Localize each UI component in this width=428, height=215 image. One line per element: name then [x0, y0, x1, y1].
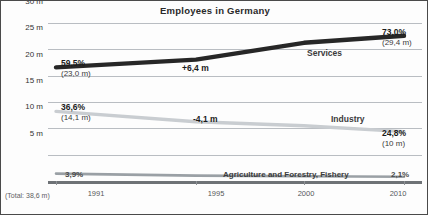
industry-start-absolute: (14,1 m) — [61, 113, 91, 122]
y-axis-label-5m: 5 m — [3, 128, 43, 137]
x-axis-label-2000: 2000 — [298, 189, 315, 198]
x-tick-2010 — [404, 181, 405, 185]
industry-end-annotation: 24,8% (10 m) — [382, 128, 406, 148]
x-axis — [48, 181, 422, 184]
y-axis-label-20m: 20 m — [3, 49, 43, 58]
series-label-industry: Industry — [331, 114, 365, 124]
services-start-percent: 59,5% — [61, 58, 91, 68]
chart-container: Employees in Germany 30 m 25 m 20 m 15 m… — [0, 0, 428, 215]
series-label-services: Services — [307, 48, 342, 58]
industry-start-percent: 36,6% — [61, 102, 91, 112]
x-tick-1995 — [196, 181, 197, 185]
x-axis-label-2010: 2010 — [390, 189, 407, 198]
y-axis-label-30m: 30 m — [3, 0, 43, 6]
industry-delta-label: -4,1 m — [193, 114, 218, 124]
x-axis-label-1995: 1995 — [208, 189, 225, 198]
industry-end-absolute: (10 m) — [382, 139, 406, 148]
services-start-absolute: (23,0 m) — [61, 69, 91, 78]
series-label-agriculture: Agriculture and Forestry, Fishery — [223, 170, 349, 179]
agriculture-start-percent: 3,9% — [65, 170, 83, 179]
agriculture-end-percent: 2,1% — [391, 170, 409, 179]
line-services — [56, 36, 404, 68]
services-end-percent: 73,0% — [382, 27, 412, 37]
services-start-annotation: 59,5% (23,0 m) — [61, 58, 91, 78]
services-end-absolute: (29,4 m) — [382, 38, 412, 47]
x-axis-label-1991: 1991 — [88, 189, 105, 198]
series-lines — [48, 23, 422, 181]
total-footnote: (Total: 38,6 m) — [5, 192, 50, 199]
y-axis-label-10m: 10 m — [3, 102, 43, 111]
x-tick-1991 — [56, 181, 57, 185]
y-axis-label-25m: 25 m — [3, 23, 43, 32]
industry-end-percent: 24,8% — [382, 128, 406, 138]
x-tick-2000 — [304, 181, 305, 185]
services-end-annotation: 73,0% (29,4 m) — [382, 27, 412, 47]
services-delta-label: +6,4 m — [182, 63, 209, 73]
plot-area: 1991 1995 2000 2010 — [48, 23, 422, 181]
industry-start-annotation: 36,6% (14,1 m) — [61, 102, 91, 122]
chart-title: Employees in Germany — [1, 5, 428, 16]
y-axis-label-15m: 15 m — [3, 76, 43, 85]
